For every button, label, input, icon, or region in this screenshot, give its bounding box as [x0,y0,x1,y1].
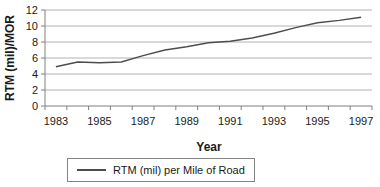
svg-text:1989: 1989 [174,115,198,127]
svg-text:1993: 1993 [262,115,286,127]
svg-text:1983: 1983 [44,115,68,127]
legend-box: RTM (mil) per Mile of Road [67,158,255,182]
svg-text:1995: 1995 [305,115,329,127]
legend-series-label: RTM (mil) per Mile of Road [113,164,245,176]
svg-text:2: 2 [32,84,38,96]
svg-text:10: 10 [26,20,38,32]
legend-line-marker [77,169,106,171]
svg-text:0: 0 [32,100,38,112]
svg-text:6: 6 [32,52,38,64]
svg-text:12: 12 [26,4,38,16]
x-axis-title: Year [196,140,221,154]
svg-text:8: 8 [32,36,38,48]
svg-text:1987: 1987 [131,115,155,127]
svg-text:4: 4 [32,68,38,80]
rtm-line-chart: 0246810121983198519871989199119931995199… [0,0,380,187]
svg-text:1985: 1985 [87,115,111,127]
svg-text:1997: 1997 [349,115,373,127]
svg-text:1991: 1991 [218,115,242,127]
y-axis-title: RTM (mil)/MOR [3,15,17,101]
